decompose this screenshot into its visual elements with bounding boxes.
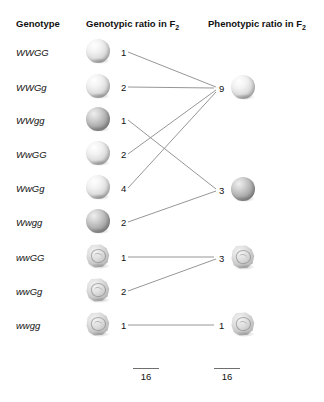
genotypic-total-rule [133, 368, 159, 369]
phenotypic-ratio-value: 3 [219, 253, 224, 264]
genotypic-ratio-value: 1 [121, 320, 126, 331]
connector-lines [0, 0, 324, 402]
genotype-seed [86, 244, 112, 270]
genotypic-ratio-value: 1 [121, 47, 126, 58]
seed-shadow [89, 228, 110, 234]
genotype-seed [86, 209, 112, 235]
seed-shadow [234, 331, 255, 337]
phenotypic-total-rule [214, 368, 240, 369]
genotypic-ratio-value: 1 [121, 115, 126, 126]
genotypic-ratio-value: 4 [121, 183, 126, 194]
seed-shadow [234, 94, 255, 100]
punnett-ratio-diagram: Genotype Genotypic ratio in F2 Phenotypi… [0, 0, 324, 402]
phenotypic-ratio-value: 1 [219, 320, 224, 331]
seed-shadow [89, 331, 110, 337]
connector-WwGg-to-9 [128, 92, 216, 188]
genotypic-ratio-value: 2 [121, 82, 126, 93]
genotype-seed [86, 278, 112, 304]
phenotypic-ratio-value: 3 [219, 185, 224, 196]
connector-WWgg-to-3 [128, 120, 216, 189]
genotype-label: wwGg [16, 286, 42, 297]
genotype-label: WwGG [16, 149, 47, 160]
genotype-label: wwgg [16, 320, 40, 331]
connector-Wwgg-to-3 [128, 191, 216, 222]
genotype-seed [86, 39, 112, 65]
genotype-label: WwGg [16, 183, 45, 194]
genotype-label: wwGG [16, 252, 45, 263]
seed-shadow [89, 263, 110, 269]
seed-shadow [89, 58, 110, 64]
seed-shadow [234, 264, 255, 270]
connector-WWGg-to-9 [128, 87, 214, 88]
connector-WWGG-to-9 [128, 52, 216, 87]
genotypic-ratio-value: 2 [121, 149, 126, 160]
genotype-seed [86, 107, 112, 133]
genotype-seed [86, 74, 112, 100]
seed-shadow [89, 194, 110, 200]
genotype-label: WWGG [16, 47, 49, 58]
genotype-seed [86, 141, 112, 167]
seed-shadow [89, 160, 110, 166]
genotypic-ratio-value: 2 [121, 286, 126, 297]
genotypic-ratio-value: 2 [121, 217, 126, 228]
phenotype-seed [231, 75, 257, 101]
genotype-seed [86, 312, 112, 338]
connector-wwGg-to-3 [128, 259, 216, 291]
seed-shadow [89, 93, 110, 99]
genotype-label: WWgg [16, 115, 45, 126]
phenotypic-ratio-value: 9 [219, 83, 224, 94]
phenotype-seed [231, 245, 257, 271]
phenotypic-total: 16 [214, 371, 240, 382]
seed-shadow [234, 196, 255, 202]
connector-WwGG-to-9 [128, 90, 216, 154]
phenotype-seed [231, 312, 257, 338]
seed-shadow [89, 126, 110, 132]
genotype-label: Wwgg [16, 217, 42, 228]
phenotype-seed [231, 177, 257, 203]
genotype-seed [86, 175, 112, 201]
genotypic-total: 16 [133, 371, 159, 382]
seed-shadow [89, 297, 110, 303]
genotypic-ratio-value: 1 [121, 252, 126, 263]
genotype-label: WWGg [16, 82, 47, 93]
